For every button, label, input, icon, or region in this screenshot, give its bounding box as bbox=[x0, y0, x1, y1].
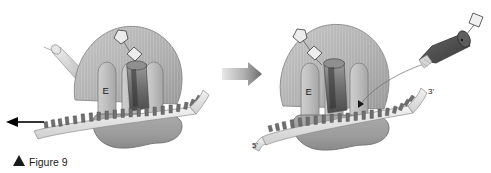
caption-triangle-icon bbox=[13, 155, 25, 166]
mrna-movement-arrow bbox=[6, 117, 44, 127]
peptidyl-trna-dark bbox=[324, 59, 348, 113]
caption-text: Figure 9 bbox=[29, 156, 68, 168]
site-column-A bbox=[350, 63, 368, 117]
site-label-E: E bbox=[306, 86, 312, 97]
mrna-3-prime-label: 3' bbox=[428, 87, 434, 96]
peptidyl-trna-dark bbox=[127, 61, 150, 111]
site-label-E: E bbox=[103, 85, 109, 96]
step-transition-arrow bbox=[222, 62, 262, 86]
figure-container: E P A bbox=[0, 0, 491, 173]
figure-caption: Figure 9 bbox=[13, 155, 68, 168]
mrna-5-prime-label: 5' bbox=[252, 141, 258, 150]
amino-acid-square bbox=[469, 13, 483, 27]
ribosome-translation-figure: E P A bbox=[0, 0, 491, 173]
right-panel: E P A site site bbox=[252, 13, 483, 151]
left-panel: E P A bbox=[6, 26, 209, 148]
incoming-charged-trna bbox=[419, 13, 483, 68]
